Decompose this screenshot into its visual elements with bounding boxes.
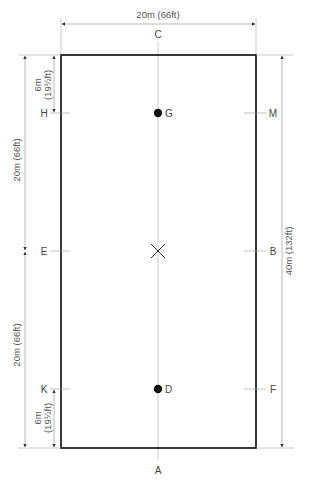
arena-diagram: 20m (66ft) 40m (132ft) 20m (66ft) 20m (6…	[0, 0, 311, 481]
marker-G: G	[165, 108, 173, 119]
point-G-dot	[154, 109, 162, 117]
upper-20m-label: 20m (66ft)	[11, 138, 22, 181]
top-6m-ft-label: (19½ft)	[42, 70, 53, 100]
marker-H: H	[40, 108, 47, 119]
marker-M: M	[269, 108, 277, 119]
marker-K: K	[41, 384, 48, 395]
left-outer-dimensions: 20m (66ft) 20m (66ft)	[11, 56, 25, 447]
bottom-6m-ft-label: (19½ft)	[42, 403, 53, 433]
point-D-dot	[154, 385, 162, 393]
marker-E: E	[41, 246, 48, 257]
length-label: 40m (132ft)	[283, 227, 294, 276]
lower-20m-label: 20m (66ft)	[11, 323, 22, 366]
marker-A: A	[155, 465, 162, 476]
marker-C: C	[154, 29, 161, 40]
length-dimension: 40m (132ft)	[282, 56, 294, 447]
marker-B: B	[270, 246, 277, 257]
width-label: 20m (66ft)	[136, 9, 179, 20]
marker-F: F	[270, 384, 276, 395]
marker-D: D	[165, 384, 172, 395]
